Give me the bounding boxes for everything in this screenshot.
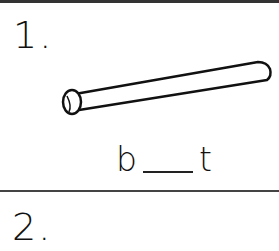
item-number: 2. — [12, 208, 52, 246]
item-number: 1. — [13, 16, 53, 54]
item-divider — [0, 190, 279, 192]
word-start-letter: b — [116, 143, 137, 176]
fill-in-word: b t — [116, 143, 212, 176]
answer-blank[interactable] — [143, 170, 193, 173]
baseball-bat-icon — [55, 50, 275, 120]
top-border — [0, 0, 279, 3]
word-end-letter: t — [199, 143, 212, 176]
